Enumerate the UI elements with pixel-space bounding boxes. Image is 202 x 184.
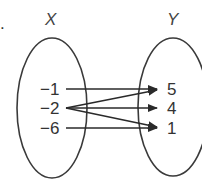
range-element: 1 [167,119,176,138]
range-element: 5 [167,80,176,99]
range-set-label: Y [167,10,180,29]
mapping-arrow [66,108,157,127]
mapping-diagram: . X Y −1 −2 −6 5 4 1 [0,0,202,184]
domain-element: −1 [40,80,59,99]
diagram-canvas: . X Y −1 −2 −6 5 4 1 [0,0,202,184]
list-marker: . [0,14,5,33]
domain-set-label: X [44,10,57,29]
domain-element: −2 [40,99,59,118]
range-element: 4 [167,99,176,118]
domain-element: −6 [40,119,59,138]
mapping-arrow [66,90,157,108]
